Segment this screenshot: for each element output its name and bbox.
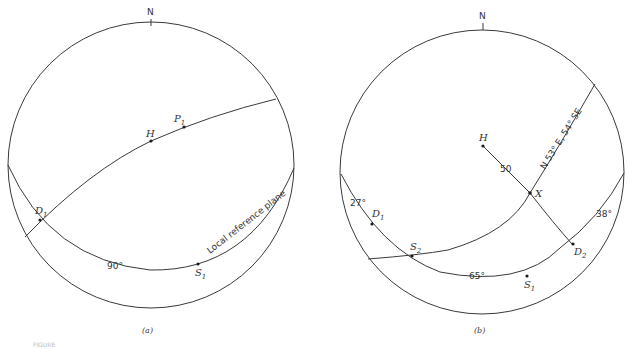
point-s1-b <box>525 274 528 277</box>
great-circle-h-p1 <box>25 99 276 237</box>
plane-label-a: Local reference plane <box>205 188 288 256</box>
point-h-b <box>481 144 484 147</box>
point-s1-a <box>196 262 199 265</box>
label-h-a: H <box>145 128 155 139</box>
distance-label-50: 50 <box>500 164 512 174</box>
label-s2: S2 <box>410 241 422 255</box>
panel-a: N H P1 D1 S1 90° Local reference plane (… <box>8 7 294 348</box>
angle-label-65: 65° <box>469 271 485 281</box>
point-s2 <box>410 254 413 257</box>
primitive-circle-a <box>8 22 294 308</box>
caption-a: (a) <box>142 326 153 335</box>
north-label-a: N <box>147 7 154 17</box>
angle-label-90: 90° <box>107 261 123 271</box>
caption-b: (b) <box>474 326 485 335</box>
north-label-b: N <box>479 11 486 21</box>
figure-caption-fragment: FIGURE <box>33 341 55 348</box>
label-x: X <box>534 188 543 199</box>
point-d1-b <box>370 222 373 225</box>
label-d1-b: D1 <box>371 208 385 222</box>
angle-label-38: 38° <box>596 209 612 219</box>
great-circle-reference-b <box>341 173 624 277</box>
label-s1-b: S1 <box>524 279 535 293</box>
point-h-a <box>149 139 152 142</box>
point-x <box>528 191 532 195</box>
great-circle-n53e <box>368 84 595 259</box>
label-s1-a: S1 <box>195 267 206 281</box>
stereonet-figure: N H P1 D1 S1 90° Local reference plane (… <box>0 0 630 349</box>
label-h-b: H <box>478 132 488 143</box>
label-p1-a: P1 <box>173 113 185 127</box>
angle-label-27: 27° <box>350 198 366 208</box>
panel-b: N H 50 X D1 S2 S1 D2 27° 65° 38° N 53° E… <box>340 11 624 335</box>
point-d1-a <box>38 218 41 221</box>
plane-label-b: N 53° E, 54° SE <box>538 106 584 171</box>
label-d2: D2 <box>573 246 587 260</box>
